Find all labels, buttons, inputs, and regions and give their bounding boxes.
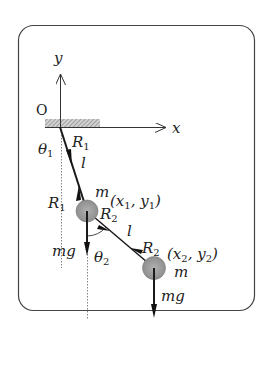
theta1-label: θ1 — [38, 140, 53, 159]
ceiling-support — [45, 119, 100, 127]
gravity-1-label: mg — [52, 242, 76, 260]
frame-border — [19, 26, 255, 311]
double-pendulum-diagram: y O x θ1 R1 l R1 m (x1, y1) R2 l mg θ2 R… — [0, 0, 274, 368]
mass-1-coordinates: (x1, y1) — [110, 192, 161, 211]
theta2-label: θ2 — [94, 248, 109, 267]
mass-2-coordinates: (x2, y2) — [167, 245, 218, 264]
y-axis-label: y — [53, 49, 63, 67]
R1-top-arrowhead — [66, 149, 72, 166]
upper-rod-length-label: l — [81, 154, 86, 172]
R2-mass2-label: R2 — [141, 239, 160, 258]
x-axis-label: x — [172, 119, 181, 137]
origin-label: O — [36, 102, 47, 118]
lower-rod-length-label: l — [127, 222, 132, 240]
gravity-arrowhead-1 — [84, 242, 90, 256]
gravity-2-label: mg — [161, 287, 185, 305]
mass-2-label: m — [174, 263, 188, 281]
mass-1-label: m — [95, 183, 109, 201]
R1-mass-label: R1 — [47, 194, 66, 213]
R1-top-label: R1 — [71, 133, 90, 152]
